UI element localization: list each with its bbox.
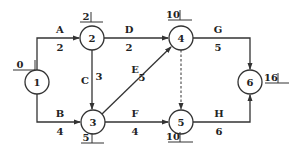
duration-label-F: 4 — [132, 126, 139, 137]
duration-label-A: 2 — [57, 42, 64, 53]
node-time-6: 16 — [264, 72, 278, 83]
edge-H: H 6 — [193, 95, 250, 137]
node-time-1: 0 — [17, 59, 24, 70]
edge-D: D 2 — [104, 24, 168, 53]
node-1: 1 0 — [13, 59, 49, 94]
node-2: 2 2 — [80, 11, 104, 50]
activity-label-B: B — [56, 108, 64, 119]
edge-F: F 4 — [105, 108, 168, 137]
node-time-3: 5 — [83, 132, 90, 143]
node-label-4: 4 — [178, 33, 185, 44]
activity-label-A: A — [55, 24, 64, 35]
node-time-2: 2 — [83, 11, 90, 22]
activity-label-C: C — [81, 75, 89, 86]
duration-label-E: 5 — [139, 72, 146, 83]
node-label-2: 2 — [89, 33, 96, 44]
activity-label-G: G — [214, 24, 223, 35]
duration-label-D: 2 — [126, 42, 133, 53]
network-diagram: A 2 B 4 C 3 D 2 E 5 F 4 G 5 — [0, 0, 301, 153]
activity-label-F: F — [131, 108, 138, 119]
node-time-5: 10 — [166, 131, 180, 142]
node-5: 5 10 — [166, 110, 193, 142]
activity-label-H: H — [214, 108, 223, 119]
duration-label-H: 6 — [216, 126, 223, 137]
node-label-6: 6 — [247, 77, 254, 88]
activity-label-D: D — [125, 24, 134, 35]
node-label-3: 3 — [90, 117, 97, 128]
node-label-5: 5 — [178, 117, 185, 128]
node-time-4: 10 — [166, 9, 180, 20]
edge-E: E 5 — [102, 47, 171, 114]
edge-A: A 2 — [37, 24, 79, 70]
edge-G: G 5 — [193, 24, 250, 69]
node-3: 3 5 — [81, 110, 105, 143]
duration-label-B: 4 — [57, 126, 64, 137]
node-6: 6 16 — [238, 70, 289, 94]
duration-label-G: 5 — [215, 42, 222, 53]
edge-C: C 3 — [81, 50, 103, 109]
node-4: 4 10 — [166, 9, 193, 50]
edge-B: B 4 — [37, 94, 80, 137]
node-label-1: 1 — [34, 77, 41, 88]
duration-label-C: 3 — [96, 71, 103, 82]
